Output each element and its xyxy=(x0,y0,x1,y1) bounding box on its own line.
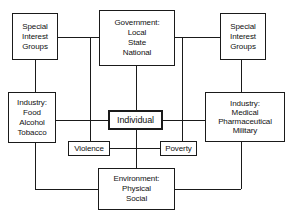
node-poverty[interactable]: Poverty xyxy=(160,141,197,156)
node-line: Military xyxy=(233,126,258,135)
node-line: Individual xyxy=(117,115,154,126)
node-government[interactable]: Government: Local State National xyxy=(99,10,175,66)
node-line: Government: xyxy=(114,18,159,28)
node-line: Industry: xyxy=(17,98,47,108)
node-line: Groups xyxy=(22,42,48,52)
node-line: Violence xyxy=(74,144,104,154)
node-special-interest-groups-right[interactable]: Special Interest Groups xyxy=(220,13,266,60)
node-industry-medical[interactable]: Industry: Medical Pharmaceutical Militar… xyxy=(205,92,285,142)
node-line: Interest xyxy=(230,32,256,42)
node-line: Alcohol xyxy=(19,118,45,128)
node-line: Medical xyxy=(232,108,259,117)
node-line: National xyxy=(123,48,152,58)
node-industry-food[interactable]: Industry: Food Alcohol Tobacco xyxy=(8,92,56,143)
node-line: Interest xyxy=(22,32,48,42)
node-individual[interactable]: Individual xyxy=(108,110,163,130)
node-line: Physical xyxy=(122,184,151,194)
node-line: Pharmaceutical xyxy=(218,117,272,126)
node-line: Local xyxy=(128,28,147,38)
node-environment[interactable]: Environment: Physical Social xyxy=(98,168,175,210)
node-line: Food xyxy=(23,108,41,118)
node-line: Environment: xyxy=(114,174,160,184)
node-line: Special xyxy=(230,22,256,32)
node-special-interest-groups-left[interactable]: Special Interest Groups xyxy=(12,13,58,60)
node-line: Industry: xyxy=(230,99,260,108)
node-line: Social xyxy=(126,194,147,204)
node-line: Tobacco xyxy=(17,128,46,138)
node-violence[interactable]: Violence xyxy=(68,141,110,156)
node-line: Groups xyxy=(230,42,256,52)
node-line: Special xyxy=(22,22,48,32)
diagram-canvas: Special Interest Groups Government: Loca… xyxy=(0,0,291,222)
node-line: Poverty xyxy=(165,144,191,154)
node-line: State xyxy=(128,38,146,48)
